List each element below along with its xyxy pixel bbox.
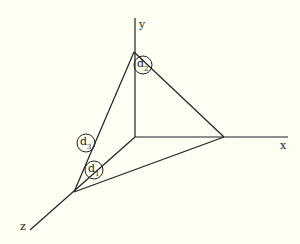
z-axis-label: z <box>20 220 26 233</box>
edge-x-z <box>74 137 224 192</box>
marker-d3: d 3 <box>77 134 95 152</box>
axes-diagram: y x z d 2 d 3 d 1 <box>0 0 300 244</box>
marker-d3-sub: 3 <box>87 143 91 151</box>
marker-d2-base: d <box>137 57 144 70</box>
y-axis-label: y <box>138 18 146 31</box>
marker-d3-base: d <box>80 135 87 148</box>
x-axis-label: x <box>280 139 287 152</box>
marker-d2-sub: 2 <box>144 65 148 73</box>
marker-d1: d 1 <box>85 161 103 179</box>
marker-d1-base: d <box>88 162 95 175</box>
diagram-canvas: y x z d 2 d 3 d 1 <box>0 0 300 244</box>
marker-d2: d 2 <box>134 56 152 74</box>
edge-y-z <box>74 52 134 192</box>
marker-d1-sub: 1 <box>95 170 99 178</box>
